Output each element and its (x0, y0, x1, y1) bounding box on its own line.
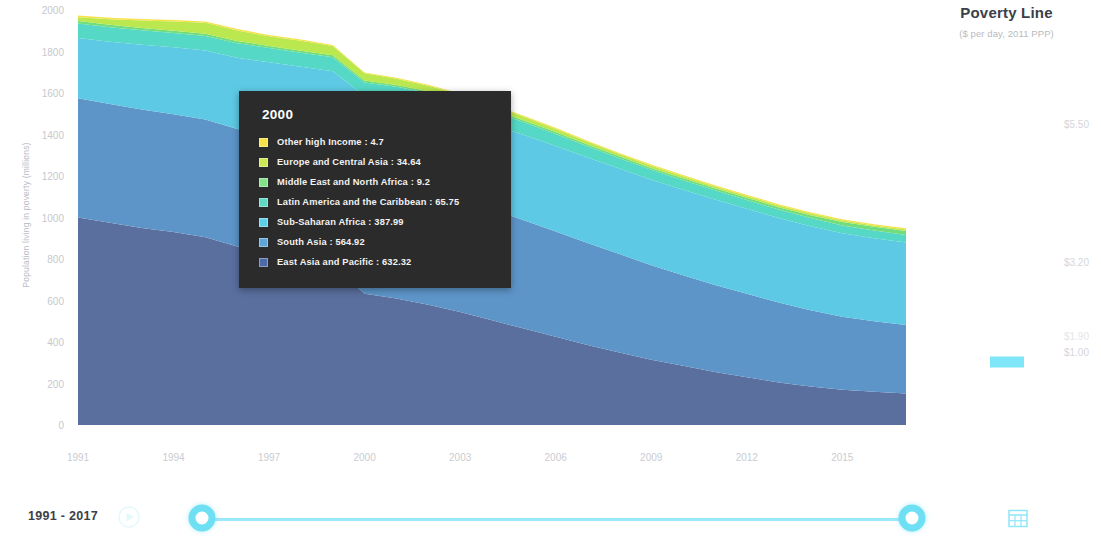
tooltip-row: Europe and Central Asia : 34.64 (259, 152, 495, 172)
x-axis-tick: 2015 (831, 452, 853, 463)
x-axis-tick: 1991 (67, 452, 89, 463)
x-axis-tick: 2003 (449, 452, 471, 463)
tooltip-row-label: South Asia : 564.92 (277, 237, 365, 247)
y-axis-tick: 0 (58, 420, 64, 431)
time-slider-track[interactable] (196, 518, 914, 521)
tooltip-rows: Other high Income : 4.7Europe and Centra… (259, 132, 495, 272)
legend-subtitle: ($ per day, 2011 PPP) (920, 28, 1093, 39)
tooltip-row: Latin America and the Caribbean : 65.75 (259, 192, 495, 212)
y-axis-tick: 1400 (42, 129, 64, 140)
time-range-label: 1991 - 2017 (28, 509, 98, 523)
x-axis-tick: 2009 (640, 452, 662, 463)
poverty-line-option[interactable]: $1.90 (1064, 331, 1089, 342)
poverty-line-selected-swatch[interactable] (990, 357, 1024, 368)
time-control-bar[interactable]: 1991 - 2017 (0, 495, 1101, 545)
y-axis-tick: 400 (47, 337, 64, 348)
tooltip-color-swatch (259, 218, 268, 227)
x-axis-tick: 2006 (545, 452, 567, 463)
y-axis-tick: 1800 (42, 46, 64, 57)
poverty-line-legend[interactable]: Poverty Line ($ per day, 2011 PPP) $5.50… (920, 0, 1101, 430)
tooltip-color-swatch (259, 158, 268, 167)
tooltip-row: East Asia and Pacific : 632.32 (259, 252, 495, 272)
x-axis-tick: 2000 (353, 452, 375, 463)
tooltip-row-label: Other high Income : 4.7 (277, 137, 384, 147)
tooltip-row-label: East Asia and Pacific : 632.32 (277, 257, 411, 267)
y-axis-tick: 1000 (42, 212, 64, 223)
y-axis-tick: 1600 (42, 88, 64, 99)
y-axis-ticks: 2000180016001400120010008006004002000 (0, 0, 72, 430)
calendar-icon[interactable] (1007, 507, 1029, 529)
tooltip-row-label: Europe and Central Asia : 34.64 (277, 157, 421, 167)
legend-title: Poverty Line (920, 4, 1093, 21)
tooltip-row: South Asia : 564.92 (259, 232, 495, 252)
y-axis-tick: 1200 (42, 171, 64, 182)
x-axis-tick: 1997 (258, 452, 280, 463)
poverty-visualization: Population living in poverty (millions) … (0, 0, 1101, 545)
poverty-line-option[interactable]: $1.00 (1064, 347, 1089, 358)
y-axis-tick: 200 (47, 378, 64, 389)
x-axis-ticks: 199119941997200020032006200920122015 (78, 452, 906, 470)
play-icon[interactable] (118, 506, 140, 528)
tooltip-color-swatch (259, 238, 268, 247)
y-axis-tick: 2000 (42, 5, 64, 16)
time-slider-handle-start[interactable] (189, 505, 216, 532)
tooltip-year: 2000 (262, 107, 495, 122)
poverty-line-option[interactable]: $5.50 (1064, 119, 1089, 130)
tooltip-row: Middle East and North Africa : 9.2 (259, 172, 495, 192)
tooltip-row-label: Latin America and the Caribbean : 65.75 (277, 197, 459, 207)
poverty-line-option[interactable]: $3.20 (1064, 257, 1089, 268)
tooltip-color-swatch (259, 178, 268, 187)
y-axis-tick: 800 (47, 254, 64, 265)
tooltip-color-swatch (259, 258, 268, 267)
tooltip-color-swatch (259, 198, 268, 207)
y-axis-tick: 600 (47, 295, 64, 306)
tooltip-row-label: Middle East and North Africa : 9.2 (277, 177, 430, 187)
tooltip-row: Other high Income : 4.7 (259, 132, 495, 152)
tooltip-color-swatch (259, 138, 268, 147)
time-slider-handle-end[interactable] (899, 505, 926, 532)
tooltip-row: Sub-Saharan Africa : 387.99 (259, 212, 495, 232)
tooltip-row-label: Sub-Saharan Africa : 387.99 (277, 217, 404, 227)
x-axis-tick: 1994 (162, 452, 184, 463)
chart-tooltip: 2000 Other high Income : 4.7Europe and C… (239, 91, 511, 288)
x-axis-tick: 2012 (736, 452, 758, 463)
